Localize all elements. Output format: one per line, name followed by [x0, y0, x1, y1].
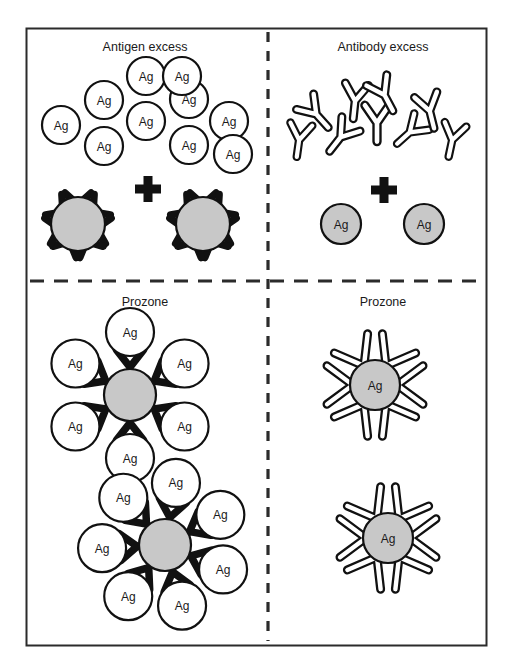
- lattice-1-satellite-5-label: Ag: [95, 542, 110, 556]
- panel-title-top-left: Antigen excess: [103, 40, 188, 54]
- free-antigen-7-label: Ag: [175, 70, 190, 84]
- lattice-1-satellite-2-label: Ag: [216, 563, 231, 577]
- lattice-0-satellite-4-label: Ag: [68, 420, 83, 434]
- cluster-1-core-label: Ag: [381, 532, 396, 546]
- panel-title-bottom-right: Prozone: [360, 295, 407, 309]
- lattice-0-satellite-5-label: Ag: [68, 357, 83, 371]
- lattice-0-satellite-2-label: Ag: [177, 420, 192, 434]
- lattice-1-satellite-3-label: Ag: [175, 599, 190, 613]
- free-antigen-8-label: Ag: [222, 115, 237, 129]
- lattice-1-satellite-1-label: Ag: [213, 508, 228, 522]
- lattice-0-satellite-1-label: Ag: [177, 357, 192, 371]
- immunology-diagram-root: Antigen excessAgAgAgAgAgAgAgAgAgAgAntibo…: [0, 0, 509, 668]
- lattice-0-satellite-0-label: Ag: [123, 326, 138, 340]
- lattice-1-satellite-4-label: Ag: [121, 590, 136, 604]
- lattice-0-satellite-3-label: Ag: [123, 452, 138, 466]
- free-antigen-6-label: Ag: [182, 139, 197, 153]
- complex-1-core-circle: [176, 197, 230, 251]
- free-antigen-9-label: Ag: [226, 148, 241, 162]
- complex-0-core-circle: [51, 197, 105, 251]
- panel-title-top-right: Antibody excess: [337, 40, 428, 54]
- free-antigen-4-label: Ag: [139, 70, 154, 84]
- free-antigen-3-label: Ag: [139, 115, 154, 129]
- free-antigen-0-label: Ag: [54, 119, 69, 133]
- free-antigen-1-label: Ag: [97, 94, 112, 108]
- free-antigen-2-label: Ag: [97, 140, 112, 154]
- antigen-0-label: Ag: [334, 218, 349, 232]
- antigen-1-label: Ag: [417, 218, 432, 232]
- lattice-0-core-circle: [104, 369, 156, 421]
- lattice-1-core-circle: [139, 519, 191, 571]
- lattice-1-satellite-0-label: Ag: [169, 476, 184, 490]
- cluster-0-core-label: Ag: [368, 379, 383, 393]
- diagram-canvas: Antigen excessAgAgAgAgAgAgAgAgAgAgAntibo…: [0, 0, 509, 668]
- lattice-1-satellite-6-label: Ag: [116, 491, 131, 505]
